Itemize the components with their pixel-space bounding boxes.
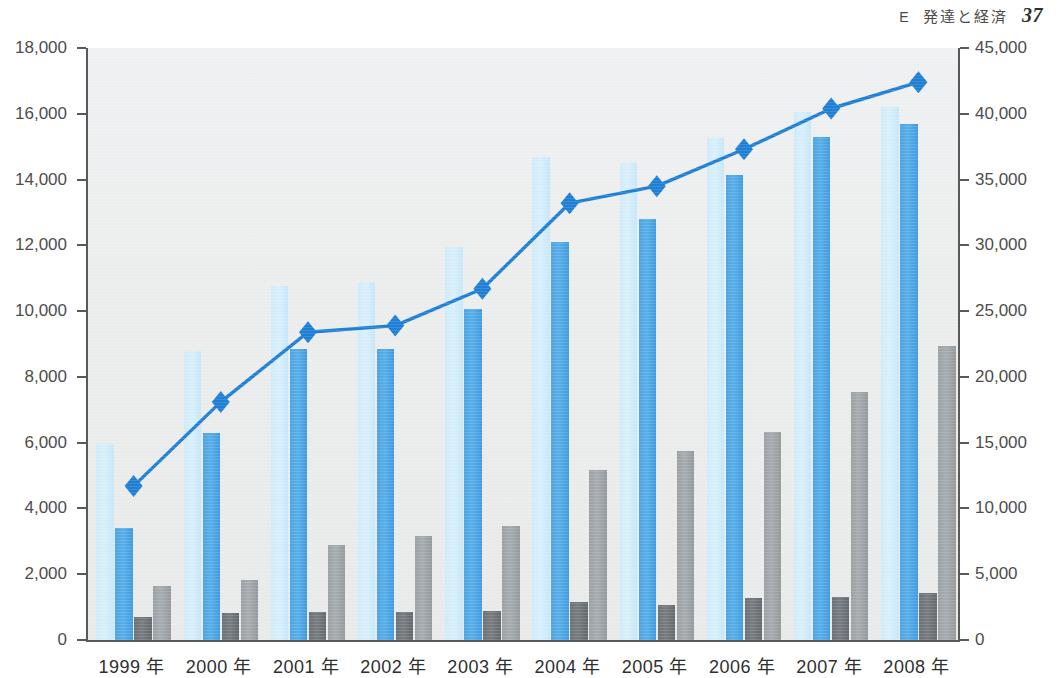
right-axis-tick-label: 25,000	[975, 301, 1027, 321]
line-marker-2002	[386, 315, 404, 337]
x-axis-label-1999: 1999 年	[99, 652, 165, 678]
right-axis-tick	[960, 179, 969, 181]
right-axis-tick-label: 15,000	[975, 433, 1027, 453]
line-marker-2008	[909, 71, 927, 93]
left-axis-tick-label: 12,000	[15, 235, 67, 255]
right-axis-tick-label: 30,000	[975, 235, 1027, 255]
plot-area	[86, 48, 960, 642]
x-axis-label-2007: 2007 年	[796, 652, 862, 678]
line-marker-2005	[648, 175, 666, 197]
left-axis-tick-label: 4,000	[24, 498, 67, 518]
right-axis-tick	[960, 376, 969, 378]
left-axis-tick	[77, 47, 86, 49]
left-axis-tick-label: 14,000	[15, 170, 67, 190]
x-axis-label-2006: 2006 年	[709, 652, 775, 678]
right-axis-tick	[960, 47, 969, 49]
right-axis-tick-label: 0	[975, 630, 984, 650]
x-axis-label-2008: 2008 年	[883, 652, 949, 678]
line-marker-2001	[299, 321, 317, 343]
line-series-path	[134, 82, 919, 486]
running-head: E 発達と経済 37	[899, 4, 1043, 27]
left-axis-tick-label: 2,000	[24, 564, 67, 584]
right-axis-line	[958, 48, 960, 640]
right-axis-tick-label: 35,000	[975, 170, 1027, 190]
left-axis-tick	[77, 507, 86, 509]
x-axis-label-2005: 2005 年	[622, 652, 688, 678]
right-axis-tick	[960, 639, 969, 641]
right-axis-tick	[960, 573, 969, 575]
running-head-section: E	[899, 9, 909, 25]
x-axis-label-2001: 2001 年	[273, 652, 339, 678]
right-axis-tick-label: 45,000	[975, 38, 1027, 58]
x-axis-label-2002: 2002 年	[360, 652, 426, 678]
right-axis-tick	[960, 113, 969, 115]
left-axis-tick	[77, 310, 86, 312]
running-head-title: 発達と経済	[923, 5, 1008, 26]
right-axis-tick-label: 10,000	[975, 498, 1027, 518]
line-marker-2007	[822, 98, 840, 120]
x-axis-label-2000: 2000 年	[186, 652, 252, 678]
right-axis-tick	[960, 244, 969, 246]
right-axis-tick-label: 20,000	[975, 367, 1027, 387]
left-axis-tick	[77, 244, 86, 246]
left-axis-tick	[77, 442, 86, 444]
right-axis-tick	[960, 442, 969, 444]
left-axis-tick-label: 10,000	[15, 301, 67, 321]
left-axis-tick-label: 8,000	[24, 367, 67, 387]
left-axis-tick	[77, 639, 86, 641]
left-axis-tick	[77, 376, 86, 378]
right-axis-tick-label: 5,000	[975, 564, 1018, 584]
left-axis-tick-label: 16,000	[15, 104, 67, 124]
chart-figure: 02,0004,0006,0008,00010,00012,00014,0001…	[0, 30, 1059, 670]
left-axis-tick	[77, 179, 86, 181]
right-axis-tick-label: 40,000	[975, 104, 1027, 124]
right-axis-tick	[960, 310, 969, 312]
left-axis-tick-label: 18,000	[15, 38, 67, 58]
line-series-layer	[88, 48, 960, 640]
left-axis-tick-label: 6,000	[24, 433, 67, 453]
x-axis-label-2003: 2003 年	[447, 652, 513, 678]
x-axis-label-2004: 2004 年	[535, 652, 601, 678]
left-axis-tick	[77, 113, 86, 115]
left-axis-tick	[77, 573, 86, 575]
left-axis-tick-label: 0	[58, 630, 67, 650]
page-number: 37	[1022, 4, 1043, 27]
right-axis-tick	[960, 507, 969, 509]
line-marker-2006	[735, 138, 753, 160]
